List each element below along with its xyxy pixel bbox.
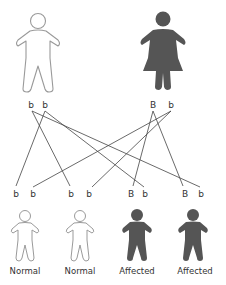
child2-figure-icon (66, 211, 94, 262)
child2-allele-1: b (68, 189, 74, 199)
father-allele-2: b (42, 100, 48, 110)
child4-allele-2: b (198, 189, 204, 199)
diagram-canvas (0, 0, 226, 285)
child1-figure-icon (11, 211, 39, 262)
inheritance-diagram: b b B b b b b b B b B b Normal Normal Af… (0, 0, 226, 285)
child2-allele-2: b (86, 189, 92, 199)
inheritance-lines (16, 111, 200, 187)
mother-allele-1: B (150, 100, 156, 110)
child3-allele-1: B (128, 189, 134, 199)
child4-status-label: Affected (177, 266, 213, 276)
father-allele-1: b (28, 100, 34, 110)
child1-status-label: Normal (10, 266, 41, 276)
child3-status-label: Affected (119, 266, 155, 276)
child3-figure-icon (122, 209, 152, 261)
child3-allele-2: b (142, 189, 148, 199)
child2-status-label: Normal (65, 266, 96, 276)
child1-allele-2: b (30, 189, 36, 199)
child4-allele-1: B (182, 189, 188, 199)
child4-figure-icon (178, 209, 208, 261)
child1-allele-1: b (13, 189, 19, 199)
mother-figure-icon (141, 12, 186, 91)
father-figure-icon (17, 14, 60, 93)
mother-allele-2: b (168, 100, 174, 110)
